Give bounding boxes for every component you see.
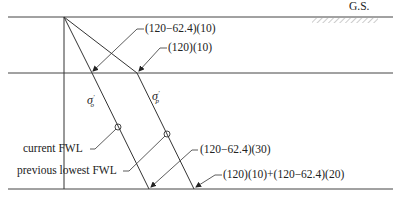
sigma-o-bottom-leader: [151, 150, 198, 187]
sigma-p-label: σ′p: [152, 90, 159, 105]
current-fwl-leader: [90, 129, 116, 149]
sigma-p-bottom-leader: [196, 175, 222, 187]
sigma-o-mid-leader: [93, 29, 144, 71]
sigma-o-label: σ′o: [87, 94, 94, 109]
previous-lowest-fwl-label: previous lowest FWL: [17, 165, 117, 177]
current-fwl-label: current FWL: [23, 143, 83, 155]
ground-surface-hatch: [312, 18, 378, 23]
sigma-o-bottom-annotation: (120−62.4)(30): [200, 144, 271, 156]
previous-lowest-fwl-leader: [123, 136, 165, 171]
sigma-p-mid-leader: [139, 48, 167, 71]
ground-surface-label: G.S.: [349, 1, 369, 13]
sigma-o-mid-annotation: (120−62.4)(10): [145, 23, 216, 35]
sigma-p-mid-annotation: (120)(10): [168, 42, 212, 54]
sigma-p-bottom-annotation: (120)(10)+(120−62.4)(20): [223, 169, 344, 181]
